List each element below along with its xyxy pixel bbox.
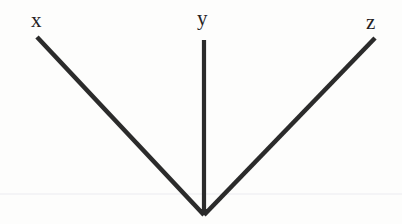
ray-label-x: x — [31, 10, 42, 31]
figure-canvas: x y z — [0, 0, 402, 224]
three-ray-diagram — [0, 0, 402, 224]
ray-label-y: y — [197, 8, 208, 29]
figure-background — [0, 0, 402, 224]
ray-label-z: z — [366, 12, 375, 33]
